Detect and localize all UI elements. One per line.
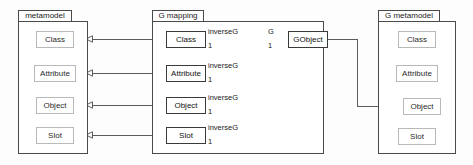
- assoc-role-inverseg-attribute: inverseG: [208, 62, 238, 70]
- assoc-multiplicity-class: 1: [208, 42, 212, 50]
- assoc-role-inverseg-slot: inverseG: [208, 124, 238, 132]
- package-g-metamodel-title: G metamodel: [385, 12, 433, 20]
- class-box-label: Attribute: [171, 70, 201, 78]
- class-box-label: Attribute: [40, 70, 70, 78]
- class-box-label: Slot: [179, 132, 193, 140]
- assoc-multiplicity-attribute: 1: [208, 76, 212, 84]
- class-box-gm-class[interactable]: Class: [166, 31, 206, 48]
- package-metamodel-title: metamodel: [25, 12, 65, 20]
- package-g-mapping-tab: G mapping: [152, 10, 204, 22]
- class-box-label: Slot: [410, 133, 424, 141]
- assoc-multiplicity-g: 1: [268, 42, 272, 50]
- class-box-gm-attribute[interactable]: Attribute: [166, 65, 206, 82]
- class-box-label: Class: [176, 36, 196, 44]
- package-g-metamodel-tab: G metamodel: [378, 10, 440, 22]
- class-box-label: Object: [174, 102, 197, 110]
- class-box-gmm-class[interactable]: Class: [398, 31, 436, 48]
- assoc-multiplicity-object: 1: [208, 108, 212, 116]
- class-box-gmm-object[interactable]: Object: [403, 98, 441, 115]
- package-metamodel-tab: metamodel: [18, 10, 72, 22]
- diagram-canvas: metamodel Class Attribute Object Slot G …: [0, 0, 473, 165]
- assoc-role-g: G: [268, 28, 274, 36]
- class-box-label: Slot: [48, 132, 62, 140]
- class-box-label: GObject: [293, 36, 322, 44]
- assoc-role-inverseg-object: inverseG: [208, 94, 238, 102]
- class-box-gmm-slot[interactable]: Slot: [398, 128, 436, 145]
- class-box-gm-gobject[interactable]: GObject: [288, 31, 328, 48]
- class-box-mm-object[interactable]: Object: [36, 97, 74, 114]
- class-box-label: Object: [410, 103, 433, 111]
- class-box-mm-class[interactable]: Class: [36, 31, 74, 48]
- class-box-gm-slot[interactable]: Slot: [166, 127, 206, 144]
- assoc-multiplicity-slot: 1: [208, 138, 212, 146]
- class-box-gmm-attribute[interactable]: Attribute: [396, 65, 438, 82]
- class-box-label: Object: [43, 102, 66, 110]
- class-box-mm-slot[interactable]: Slot: [36, 127, 74, 144]
- class-box-gm-object[interactable]: Object: [166, 97, 206, 114]
- class-box-label: Attribute: [402, 70, 432, 78]
- class-box-label: Class: [45, 36, 65, 44]
- class-box-mm-attribute[interactable]: Attribute: [34, 65, 76, 82]
- class-box-label: Class: [407, 36, 427, 44]
- package-g-mapping-title: G mapping: [158, 12, 197, 20]
- assoc-role-inverseg-class: inverseG: [208, 28, 238, 36]
